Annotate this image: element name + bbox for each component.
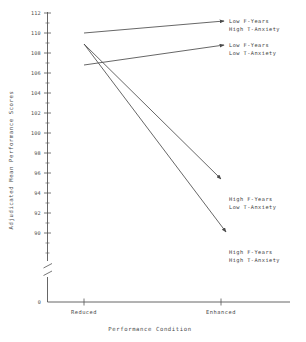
y-tick-90: 90 — [34, 230, 41, 236]
series-label-high-f-low-t: High F-Years Low T-Anxiety — [229, 196, 276, 211]
series-line-high-f-low-t — [84, 44, 221, 179]
series-label-line1: High F-Years — [229, 249, 273, 256]
y-tick-0: 0 — [38, 299, 41, 305]
line-chart: 112 110 108 106 104 102 100 98 9 — [0, 0, 306, 342]
axis-break-icon — [44, 264, 53, 276]
y-tick-94: 94 — [34, 190, 41, 196]
x-tick-label-reduced: Reduced — [71, 309, 97, 315]
series-label-low-f-low-t: Low F-Years Low T-Anxiety — [229, 42, 276, 57]
y-axis-title: Adjudicated Mean Performance Scores — [8, 91, 15, 230]
series-label-line2: High T-Anxiety — [229, 26, 280, 33]
series-label-line1: Low F-Years — [229, 42, 269, 48]
series-label-line2: Low T-Anxiety — [229, 50, 276, 57]
y-tick-110: 110 — [31, 30, 41, 36]
series-label-line2: Low T-Anxiety — [229, 204, 276, 211]
y-tick-106: 106 — [31, 70, 41, 76]
chart-canvas: 112 110 108 106 104 102 100 98 9 — [0, 0, 306, 342]
y-tick-92: 92 — [34, 210, 41, 216]
y-tick-104: 104 — [31, 90, 41, 96]
series-label-line1: Low F-Years — [229, 18, 269, 24]
x-tick-label-enhanced: Enhanced — [206, 309, 236, 315]
y-tick-96: 96 — [34, 170, 41, 176]
series-line-low-f-high-t — [84, 21, 224, 33]
x-axis-title: Performance Condition — [108, 326, 191, 332]
y-tick-100: 100 — [31, 130, 41, 136]
series-line-high-f-high-t — [84, 44, 226, 232]
y-tick-102: 102 — [31, 110, 41, 116]
y-tick-112: 112 — [31, 10, 41, 16]
y-axis-ticks: 112 110 108 106 104 102 100 98 9 — [31, 10, 51, 305]
y-tick-108: 108 — [31, 50, 41, 56]
series-label-high-f-high-t: High F-Years High T-Anxiety — [229, 249, 280, 264]
series-label-low-f-high-t: Low F-Years High T-Anxiety — [229, 18, 280, 33]
series-label-line2: High T-Anxiety — [229, 257, 280, 264]
series-label-line1: High F-Years — [229, 196, 273, 203]
x-axis-ticks: Reduced Enhanced — [71, 299, 236, 316]
series-line-low-f-low-t — [84, 45, 224, 65]
y-tick-98: 98 — [34, 150, 41, 156]
